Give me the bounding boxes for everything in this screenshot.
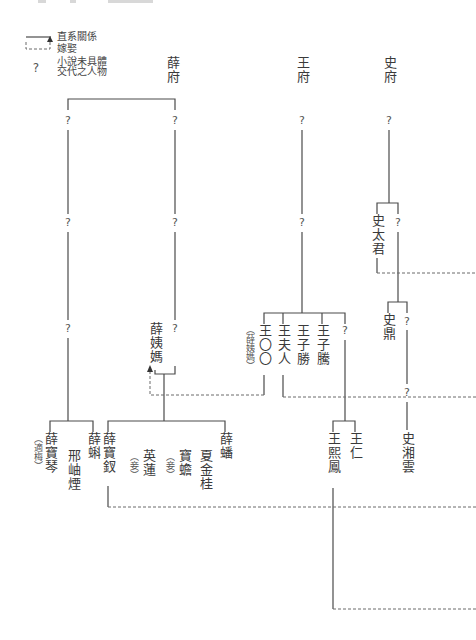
unknown-wang-3: ? <box>342 324 348 337</box>
legend-direct-relation: 直系關係 <box>57 31 97 42</box>
person-wang-zisheng: 王子勝 <box>295 324 309 366</box>
person-wang-oo: 王〇〇 <box>257 324 271 366</box>
person-bao-chan: 寶蟾 <box>177 449 191 477</box>
person-xue-yima: 薛姨媽 <box>148 322 162 364</box>
family-shi: 史府 <box>382 56 396 84</box>
unknown-xue-b1: ? <box>172 114 178 127</box>
unknown-wang-1: ? <box>299 114 305 127</box>
person-wang-ziteng: 王子騰 <box>315 324 329 366</box>
legend-unknown-label: 小說未具體 交代之人物 <box>57 57 107 77</box>
unknown-xue-a1: ? <box>65 114 71 127</box>
unknown-shi-3: ? <box>404 315 410 328</box>
person-shi-xiangyun: 史湘雲 <box>400 432 414 474</box>
unknown-shi-1: ? <box>386 114 392 127</box>
person-xing-xiuyan: 邢岫煙 <box>66 449 80 491</box>
person-xue-baochai: 薛寶釵 <box>101 432 115 474</box>
note-bao-chan: （妾） <box>165 452 175 479</box>
legend-unknown-symbol: ? <box>33 61 39 75</box>
person-wang-ren: 王仁 <box>348 432 362 460</box>
person-shi-ding: 史鼎 <box>381 313 395 341</box>
note-ying-lian: （妾） <box>129 452 139 479</box>
unknown-wang-2: ? <box>299 216 305 229</box>
unknown-xue-b3: ? <box>172 322 178 335</box>
person-wang-xifeng: 王熙鳳 <box>326 432 340 474</box>
legend-dashed-line <box>26 42 50 49</box>
person-xia-jingui: 夏金桂 <box>198 449 212 491</box>
note-wang-oo: （薛姨媽） <box>245 325 255 370</box>
unknown-xue-a3: ? <box>65 322 71 335</box>
unknown-xue-a2: ? <box>65 216 71 229</box>
note-xue-baoqin: （適梅） <box>33 434 43 470</box>
person-xue-baoqin: 薛寶琴 <box>43 432 57 474</box>
person-wang-furen: 王夫人 <box>276 324 290 366</box>
person-ying-lian: 英蓮 <box>141 449 155 477</box>
unknown-xue-b2: ? <box>172 216 178 229</box>
unknown-shi-4: ? <box>404 386 410 399</box>
unknown-shi-2: ? <box>395 216 401 229</box>
person-shi-taijun: 史太君 <box>370 214 384 256</box>
person-xue-pan: 薛蟠 <box>218 432 232 460</box>
person-xue-ke: 薛蝌 <box>86 432 100 460</box>
legend-marriage: 嫁娶 <box>57 43 77 54</box>
family-xue: 薛府 <box>165 56 179 84</box>
family-wang: 王府 <box>295 56 309 84</box>
